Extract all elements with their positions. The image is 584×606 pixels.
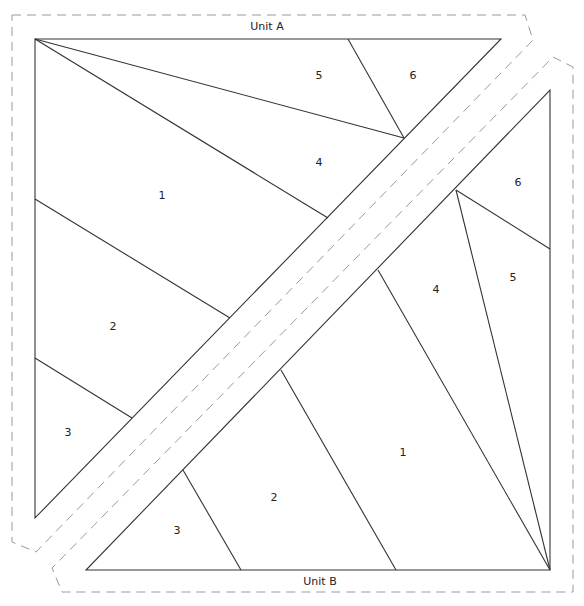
unit-b-title: Unit B [303, 575, 336, 588]
unit-a-outline [35, 39, 501, 518]
unit-b-sewing-line-4 [281, 370, 396, 570]
unit-b-piece-6: 6 [515, 176, 522, 189]
unit-a-piece-2: 2 [110, 320, 117, 333]
unit-b-piece-4: 4 [433, 283, 440, 296]
pattern-canvas [0, 0, 584, 606]
unit-b-sewing-line-5 [183, 470, 241, 570]
unit-a-seam-allowance [12, 15, 533, 552]
unit-a-sewing-line-4 [35, 199, 230, 318]
unit-a-sewing-line-1 [35, 39, 404, 138]
unit-b-sewing-line-2 [456, 190, 550, 249]
unit-a-title: Unit A [250, 20, 283, 33]
unit-a-piece-5: 5 [316, 69, 323, 82]
unit-b-piece-3: 3 [174, 524, 181, 537]
unit-a-piece-6: 6 [410, 69, 417, 82]
unit-b-sewing-line-1 [456, 190, 550, 570]
unit-b [52, 57, 573, 592]
unit-b-piece-5: 5 [510, 271, 517, 284]
unit-a-piece-3: 3 [65, 426, 72, 439]
unit-a-sewing-line-5 [35, 358, 132, 418]
unit-a-sewing-line-3 [35, 39, 328, 218]
unit-b-piece-1: 1 [400, 446, 407, 459]
unit-a-piece-1: 1 [159, 189, 166, 202]
unit-b-piece-2: 2 [271, 491, 278, 504]
unit-a-sewing-line-2 [348, 39, 404, 138]
unit-b-sewing-line-3 [378, 270, 550, 570]
unit-a-piece-4: 4 [316, 156, 323, 169]
unit-a [12, 15, 533, 552]
unit-b-seam-allowance [52, 57, 573, 592]
